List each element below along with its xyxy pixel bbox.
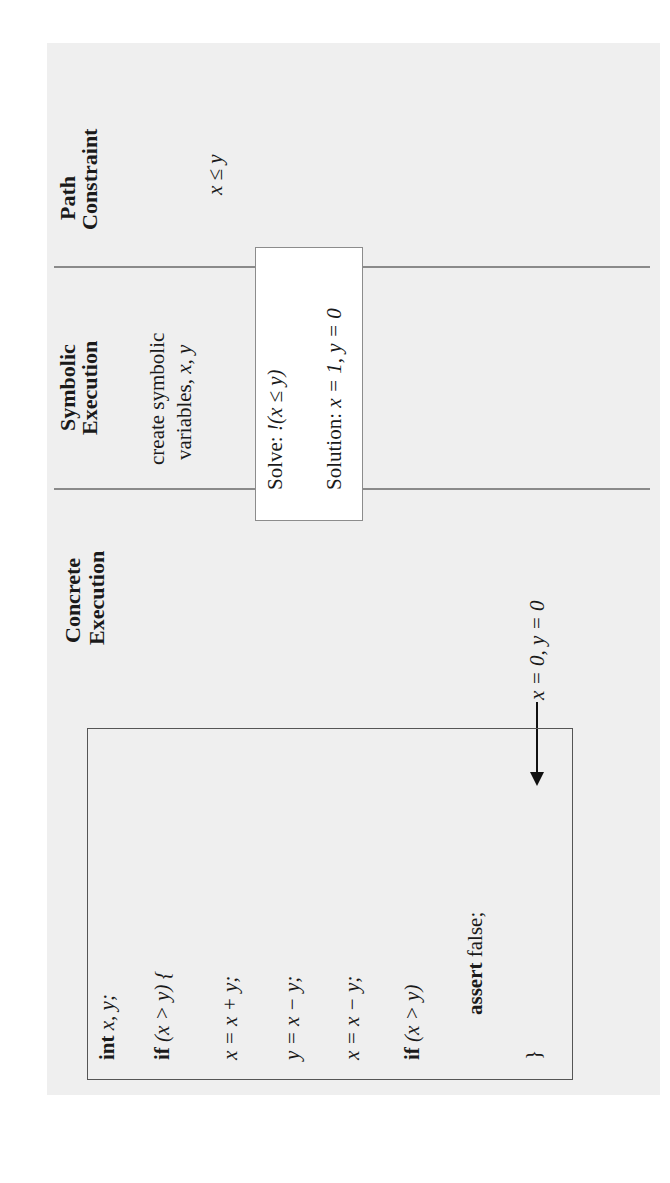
- solve-text: Solve: !(x ≤ y): [264, 369, 286, 490]
- path-constraint-heading-line1: Path: [57, 176, 79, 220]
- solve-expression: !(x ≤ y): [263, 369, 287, 431]
- symbolic-note-line2: variables, x, y: [173, 345, 195, 460]
- solve-label: Solve:: [263, 431, 287, 490]
- code-keyword: if: [400, 1047, 424, 1060]
- symbolic-execution-heading-line2: Execution: [79, 341, 101, 435]
- symbolic-note-line1: create symbolic: [146, 333, 168, 465]
- code-text: x, y;: [95, 994, 119, 1035]
- code-text: (x > y): [400, 985, 424, 1048]
- code-line: int x, y;: [96, 994, 118, 1060]
- code-keyword: assert: [463, 963, 487, 1015]
- code-keyword: if: [150, 1047, 174, 1060]
- symbolic-execution-heading-line1: Symbolic: [57, 344, 79, 431]
- code-text: false;: [463, 912, 487, 963]
- concrete-execution-heading-line1: Concrete: [62, 558, 84, 643]
- code-keyword: int: [95, 1035, 119, 1060]
- symbolic-note-vars: x, y: [172, 345, 196, 374]
- code-line: if (x > y) {: [151, 971, 173, 1060]
- concrete-input-values: x = 0, y = 0: [526, 601, 548, 700]
- rotated-page: Path Constraint x ≤ y Symbolic Execution…: [0, 0, 670, 1183]
- code-line: }: [522, 1050, 544, 1060]
- code-line: x = x + y;: [219, 976, 241, 1060]
- symbolic-note-prefix: variables,: [172, 374, 196, 460]
- solution-value: x = 1, y = 0: [322, 308, 346, 407]
- path-constraint-value: x ≤ y: [204, 154, 226, 195]
- code-line: x = x − y;: [341, 976, 363, 1060]
- concrete-execution-heading-line2: Execution: [86, 551, 108, 645]
- code-line: y = x − y;: [281, 976, 303, 1060]
- code-line: if (x > y): [401, 985, 423, 1060]
- code-line: assert false;: [464, 912, 486, 1015]
- path-constraint-heading-line2: Constraint: [79, 129, 101, 230]
- code-text: (x > y) {: [150, 971, 174, 1047]
- solution-text: Solution: x = 1, y = 0: [323, 308, 345, 490]
- solution-label: Solution:: [322, 408, 346, 490]
